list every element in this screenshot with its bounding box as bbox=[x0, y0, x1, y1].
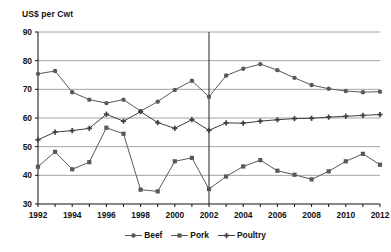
price-line-chart: US$ per Cwt 30405060708090 1992199419961… bbox=[0, 0, 391, 252]
x-tick-label: 2002 bbox=[200, 210, 219, 220]
x-tick-label: 2010 bbox=[336, 210, 355, 220]
legend-item-poultry[interactable]: Poultry bbox=[218, 231, 266, 240]
x-tick-label: 1992 bbox=[29, 210, 48, 220]
legend-label: Beef bbox=[144, 231, 162, 239]
y-axis-tick-labels: 30405060708090 bbox=[23, 27, 33, 209]
x-tick-label: 1998 bbox=[131, 210, 150, 220]
y-tick-label: 30 bbox=[23, 199, 33, 209]
x-tick-label: 1996 bbox=[97, 210, 116, 220]
y-tick-label: 40 bbox=[23, 170, 33, 180]
y-tick-label: 50 bbox=[23, 142, 33, 152]
x-tick-label: 2004 bbox=[234, 210, 253, 220]
legend-marker-cross-icon bbox=[218, 231, 235, 240]
legend-item-pork[interactable]: Pork bbox=[171, 231, 209, 240]
legend-marker-circle-icon bbox=[125, 231, 142, 240]
y-tick-label: 70 bbox=[23, 84, 33, 94]
x-tick-label: 2000 bbox=[165, 210, 184, 220]
chart-legend: BeefPorkPoultry bbox=[0, 231, 391, 240]
x-tick-label: 2006 bbox=[268, 210, 287, 220]
x-axis-tick-labels: 1992199419961998200020022004200620082010… bbox=[29, 210, 390, 220]
legend-marker-square-icon bbox=[171, 231, 188, 240]
y-tick-label: 60 bbox=[23, 113, 33, 123]
y-tick-label: 90 bbox=[23, 27, 33, 37]
plot-area: 30405060708090 1992199419961998200020022… bbox=[0, 0, 391, 252]
legend-label: Pork bbox=[190, 231, 209, 239]
x-tick-label: 2008 bbox=[302, 210, 321, 220]
legend-item-beef[interactable]: Beef bbox=[125, 231, 162, 240]
x-tick-label: 2012 bbox=[371, 210, 390, 220]
y-tick-label: 80 bbox=[23, 56, 33, 66]
legend-label: Poultry bbox=[237, 231, 266, 239]
x-tick-label: 1994 bbox=[63, 210, 82, 220]
